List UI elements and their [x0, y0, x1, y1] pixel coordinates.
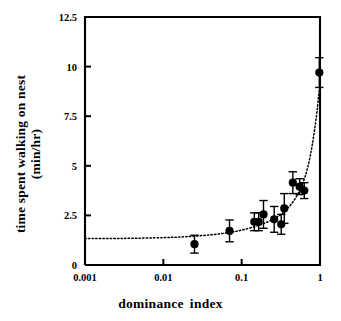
axes-frame	[85, 17, 320, 265]
x-axis-title-word-1: dominance	[118, 296, 184, 311]
data-point	[315, 68, 323, 76]
y-tick-label: 0	[72, 260, 77, 271]
x-axis-tick-labels: 0.0010.010.11	[73, 272, 322, 283]
data-point	[280, 204, 288, 212]
y-axis-title-line-2: (min/hr)	[28, 129, 43, 179]
data-points	[190, 68, 323, 248]
data-point	[289, 179, 297, 187]
y-axis-title-line-1: time spent walking on nest	[13, 75, 28, 233]
data-point	[190, 240, 198, 248]
y-tick-label: 10	[67, 62, 78, 73]
figure: 02.557.51012.5 0.0010.010.11 time spent …	[0, 0, 341, 321]
x-tick-label: 0.01	[154, 272, 172, 283]
data-point	[277, 220, 285, 228]
scatter-plot: 02.557.51012.5 0.0010.010.11	[0, 0, 341, 321]
x-tick-label: 0.001	[73, 272, 97, 283]
y-axis-title: time spent walking on nest (min/hr)	[8, 34, 48, 274]
x-axis-title: dominanceindex	[0, 296, 341, 312]
x-tick-label: 1	[317, 272, 322, 283]
data-point	[300, 187, 308, 195]
data-point	[270, 215, 278, 223]
x-axis-title-word-2: index	[190, 296, 223, 311]
y-axis-tick-labels: 02.557.51012.5	[59, 12, 77, 271]
x-tick-label: 0.1	[235, 272, 248, 283]
data-point	[255, 218, 263, 226]
data-point	[259, 210, 267, 218]
data-point	[225, 227, 233, 235]
y-tick-label: 2.5	[64, 210, 77, 221]
y-tick-label: 5	[72, 161, 77, 172]
y-tick-label: 7.5	[64, 111, 77, 122]
y-tick-label: 12.5	[59, 12, 77, 23]
